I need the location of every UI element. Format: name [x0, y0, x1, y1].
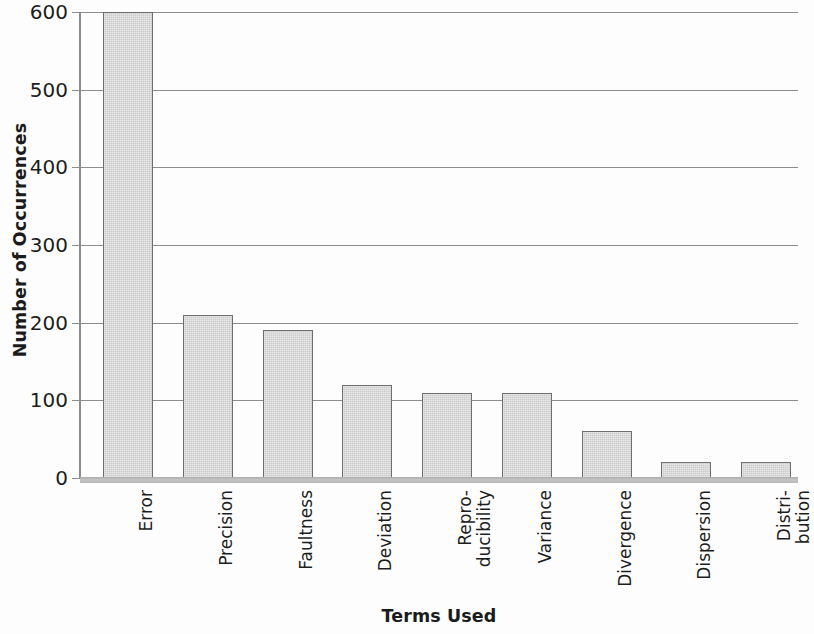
y-axis-tick-mark	[72, 167, 80, 168]
x-axis-tick-label-line: Variance	[536, 490, 555, 608]
x-axis-tick-label-line: Deviation	[376, 490, 395, 608]
bar	[103, 12, 153, 478]
x-axis-line	[80, 477, 798, 483]
x-axis-tick-label-line: Distri-	[775, 490, 794, 608]
y-axis-tick-mark	[72, 323, 80, 324]
x-axis-tick-label-line: Repro-	[456, 490, 475, 608]
bar	[422, 393, 472, 478]
y-axis-tick-mark	[72, 245, 80, 246]
x-axis-tick-label: Precision	[217, 488, 269, 608]
gridline	[80, 167, 798, 168]
gridline	[80, 12, 798, 13]
y-axis-tick-mark	[72, 12, 80, 13]
plot-area	[80, 12, 798, 478]
x-axis-tick-label-line: Faultness	[297, 490, 316, 608]
y-axis-tick-label: 400	[0, 157, 76, 177]
x-axis-tick-label-line: Divergence	[616, 490, 635, 608]
x-axis-tick-label: Dispersion	[695, 488, 747, 608]
gridline	[80, 90, 798, 91]
y-axis-tick-label: 100	[0, 390, 76, 410]
y-axis-tick-label: 200	[0, 313, 76, 333]
x-axis-tick-label: Distri-bution	[775, 488, 814, 608]
y-axis-tick-label: 600	[0, 2, 76, 22]
bar	[342, 385, 392, 478]
x-axis-tick-label: Faultness	[297, 488, 349, 608]
x-axis-tick-label: Divergence	[616, 488, 668, 608]
x-axis-tick-label: Variance	[536, 488, 588, 608]
x-axis-tick-label-line: Dispersion	[695, 490, 714, 608]
y-axis-tick-label: 500	[0, 80, 76, 100]
bar	[741, 462, 791, 478]
y-axis-tick-mark	[72, 90, 80, 91]
x-axis-tick-label-line: Error	[137, 490, 156, 608]
y-axis-tick-label: 0	[0, 468, 76, 488]
gridline	[80, 245, 798, 246]
x-axis-title: Terms Used	[80, 606, 798, 626]
bar	[502, 393, 552, 478]
x-axis-tick-label-line: bution	[794, 490, 813, 608]
x-axis-tick-label-line: Precision	[217, 490, 236, 608]
y-axis-tick-mark	[72, 400, 80, 401]
bar	[263, 330, 313, 478]
x-axis-tick-label: Repro-ducibility	[456, 488, 508, 608]
bar	[183, 315, 233, 478]
x-axis-tick-label-line: ducibility	[475, 490, 494, 608]
bar	[661, 462, 711, 478]
y-axis-tick-mark	[72, 478, 80, 479]
x-axis-tick-label: Error	[137, 488, 189, 608]
bar	[582, 431, 632, 478]
y-axis-tick-label: 300	[0, 235, 76, 255]
x-axis-tick-label: Deviation	[376, 488, 428, 608]
y-axis-tick-labels: 0100200300400500600	[0, 0, 76, 634]
